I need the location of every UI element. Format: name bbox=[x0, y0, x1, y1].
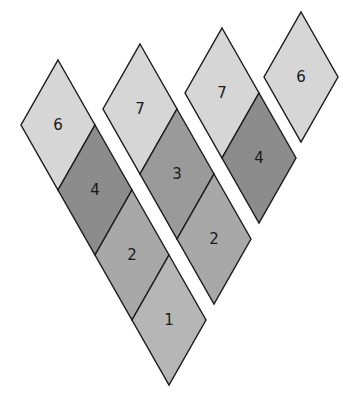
cell-number-label: 6 bbox=[53, 116, 63, 134]
cell-number-label: 4 bbox=[90, 181, 100, 199]
cell-number-label: 7 bbox=[135, 100, 145, 118]
cell-number-label: 1 bbox=[164, 311, 174, 329]
cell-number-label: 2 bbox=[209, 230, 219, 248]
rhombus-diagram: 6421732746 bbox=[0, 0, 343, 404]
cell-number-label: 7 bbox=[217, 84, 227, 102]
cell-number-label: 2 bbox=[127, 246, 137, 264]
cell-number-label: 6 bbox=[296, 68, 306, 86]
cell-number-label: 3 bbox=[172, 165, 182, 183]
cell-number-label: 4 bbox=[254, 149, 264, 167]
